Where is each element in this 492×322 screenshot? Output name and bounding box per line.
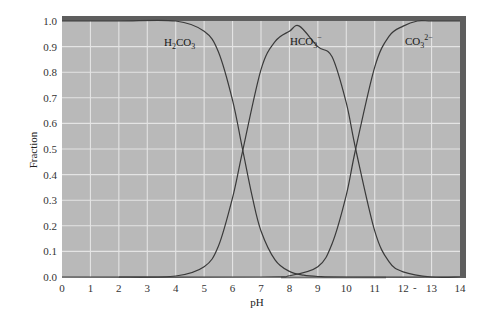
x-tick-label: 10 bbox=[341, 282, 353, 294]
x-tick-label: 6 bbox=[230, 282, 236, 294]
x-tick-label: 9 bbox=[315, 282, 321, 294]
y-tick-label: 0.1 bbox=[43, 245, 57, 257]
y-tick-label: 0.0 bbox=[43, 271, 57, 283]
x-tick-label: 3 bbox=[145, 282, 151, 294]
y-tick-label: 0.2 bbox=[43, 220, 57, 232]
x-tick-label: 2 bbox=[116, 282, 122, 294]
y-axis-title: Fraction bbox=[27, 131, 39, 168]
x-tick-label: 14 bbox=[455, 282, 467, 294]
x-tick-label: 5 bbox=[201, 282, 207, 294]
fraction-vs-ph-chart: 0.00.10.20.30.40.50.60.70.80.91.0 012345… bbox=[0, 0, 492, 322]
y-axis-ticks: 0.00.10.20.30.40.50.60.70.80.91.0 bbox=[43, 15, 57, 283]
y-tick-label: 0.9 bbox=[43, 41, 57, 53]
x-tick-label: 13 bbox=[426, 282, 438, 294]
y-tick-label: 0.4 bbox=[43, 169, 57, 181]
stray-tick-mark: - bbox=[413, 281, 417, 293]
x-axis-title: pH bbox=[250, 296, 264, 308]
y-tick-label: 0.5 bbox=[43, 143, 57, 155]
y-tick-label: 0.7 bbox=[43, 92, 57, 104]
y-tick-label: 0.6 bbox=[43, 117, 57, 129]
x-tick-label: 12 bbox=[398, 282, 409, 294]
y-tick-label: 0.8 bbox=[43, 66, 57, 78]
x-tick-label: 8 bbox=[287, 282, 293, 294]
x-tick-label: 0 bbox=[59, 282, 65, 294]
x-axis-ticks: 01234567891011121314 bbox=[59, 282, 466, 294]
plot-right-border bbox=[460, 16, 466, 278]
y-tick-label: 1.0 bbox=[43, 15, 57, 27]
x-tick-label: 1 bbox=[88, 282, 94, 294]
x-tick-label: 7 bbox=[258, 282, 264, 294]
y-tick-label: 0.3 bbox=[43, 194, 57, 206]
x-tick-label: 11 bbox=[369, 282, 380, 294]
plot-top-border bbox=[62, 16, 466, 21]
x-tick-label: 4 bbox=[173, 282, 179, 294]
